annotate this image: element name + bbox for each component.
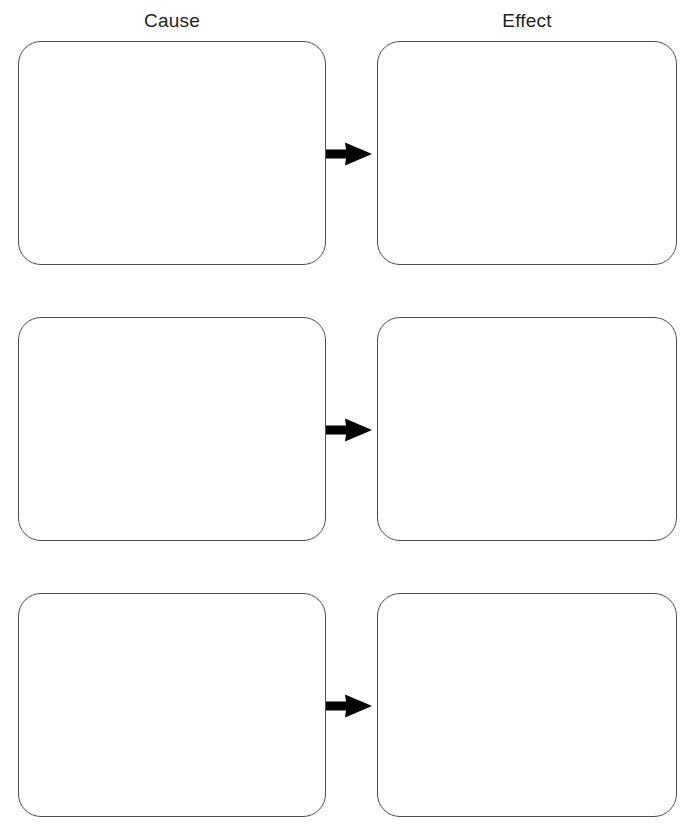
effect-box-text[interactable] [378,318,676,346]
cause-effect-row [0,317,692,541]
effect-box-text[interactable] [378,42,676,70]
column-header-effect: Effect [377,9,677,33]
arrow-right-icon [326,415,372,445]
effect-box[interactable] [377,317,677,541]
column-header-cause: Cause [18,9,326,33]
cause-effect-worksheet: Cause Effect [0,0,692,825]
arrow-right-icon [326,691,372,721]
effect-box[interactable] [377,593,677,817]
effect-box[interactable] [377,41,677,265]
cause-effect-row [0,41,692,265]
cause-box[interactable] [18,41,326,265]
cause-effect-row [0,593,692,817]
cause-box-text[interactable] [19,318,325,346]
column-headers: Cause Effect [0,0,692,42]
cause-box[interactable] [18,593,326,817]
cause-box-text[interactable] [19,42,325,70]
arrow-right-icon [326,139,372,169]
cause-box-text[interactable] [19,594,325,622]
effect-box-text[interactable] [378,594,676,622]
cause-box[interactable] [18,317,326,541]
